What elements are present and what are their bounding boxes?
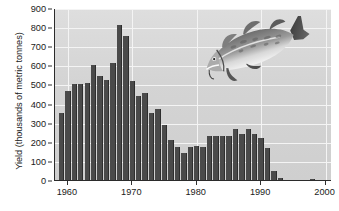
x-tick-label-1980: 1980: [185, 187, 205, 197]
bar-1977: [175, 147, 180, 180]
bar-1979: [188, 147, 193, 180]
bar-1988: [246, 129, 251, 180]
x-tick-mark-1960: [67, 181, 68, 185]
bar-1975: [162, 125, 167, 180]
x-axis-tick-labels: 19601970198019902000: [54, 181, 331, 211]
x-tick-mark-1990: [260, 181, 261, 185]
bar-1964: [91, 65, 96, 180]
bar-1959: [59, 113, 64, 180]
y-tick-mark-700: [48, 47, 52, 48]
atlantic-cod-illustration: [196, 16, 312, 82]
bar-1973: [149, 113, 154, 180]
y-tick-mark-0: [48, 181, 52, 182]
y-tick-label-100: 100: [31, 157, 46, 167]
x-tick-mark-1980: [196, 181, 197, 185]
bar-1984: [220, 136, 225, 180]
y-axis-tick-labels: 0100200300400500600700800900: [20, 0, 52, 211]
x-tick-mark-2000: [325, 181, 326, 185]
bar-1969: [123, 36, 128, 180]
bar-1990: [258, 138, 263, 180]
bar-1989: [252, 134, 257, 180]
x-tick-label-1960: 1960: [57, 187, 77, 197]
y-tick-mark-100: [48, 161, 52, 162]
bar-1998: [310, 179, 315, 180]
y-tick-mark-800: [48, 28, 52, 29]
bar-1960: [65, 91, 70, 180]
bar-1968: [117, 25, 122, 180]
y-tick-label-900: 900: [31, 4, 46, 14]
bar-1982: [207, 136, 212, 180]
bar-1983: [213, 136, 218, 180]
bar-1963: [85, 83, 90, 180]
y-tick-mark-900: [48, 9, 52, 10]
bar-1970: [130, 81, 135, 180]
y-tick-label-700: 700: [31, 42, 46, 52]
x-tick-label-1970: 1970: [121, 187, 141, 197]
y-tick-label-400: 400: [31, 100, 46, 110]
x-tick-label-2000: 2000: [314, 187, 334, 197]
bar-1980: [194, 146, 199, 180]
bar-1965: [97, 76, 102, 180]
y-tick-label-300: 300: [31, 119, 46, 129]
bar-1986: [233, 129, 238, 180]
bar-1962: [78, 84, 83, 181]
y-tick-label-0: 0: [41, 176, 46, 186]
y-tick-mark-500: [48, 85, 52, 86]
bar-1961: [72, 84, 77, 181]
x-tick-label-1990: 1990: [250, 187, 270, 197]
x-tick-mark-1970: [131, 181, 132, 185]
y-tick-mark-300: [48, 123, 52, 124]
bar-1993: [278, 178, 283, 180]
y-tick-mark-200: [48, 142, 52, 143]
cod-yield-bar-chart: Yield (thousands of metric tonnes) 01002…: [0, 0, 339, 211]
bar-1966: [104, 80, 109, 180]
y-tick-label-600: 600: [31, 61, 46, 71]
y-tick-label-200: 200: [31, 138, 46, 148]
y-tick-mark-400: [48, 104, 52, 105]
bar-1974: [155, 109, 160, 180]
bar-1972: [142, 93, 147, 180]
bar-1992: [271, 171, 276, 180]
y-tick-mark-600: [48, 66, 52, 67]
bar-1991: [265, 148, 270, 180]
y-tick-label-500: 500: [31, 80, 46, 90]
bar-1976: [168, 140, 173, 181]
bar-1967: [110, 63, 115, 180]
bar-1978: [181, 153, 186, 180]
bar-1971: [136, 96, 141, 180]
y-tick-label-800: 800: [31, 23, 46, 33]
bar-1981: [200, 147, 205, 180]
bar-1987: [239, 134, 244, 180]
bar-1985: [226, 136, 231, 180]
